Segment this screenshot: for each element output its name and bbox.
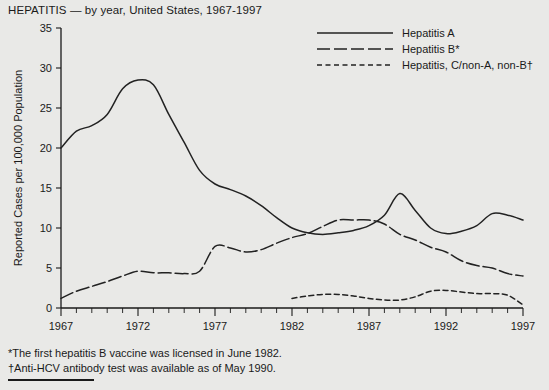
x-tick-label: 1972 xyxy=(126,320,150,332)
page-title: HEPATITIS — by year, United States, 1967… xyxy=(8,4,262,16)
y-tick-label: 10 xyxy=(40,222,52,234)
x-tick-label: 1982 xyxy=(280,320,304,332)
y-tick-label: 30 xyxy=(40,62,52,74)
x-axis: 1967197219771982198719921997 xyxy=(49,308,535,332)
footnote-anti-hcv-test: †Anti-HCV antibody test was available as… xyxy=(8,361,282,376)
legend-label-3: Hepatitis, C/non-A, non-B† xyxy=(402,59,533,71)
legend-label-2: Hepatitis B* xyxy=(402,43,460,55)
x-tick-label: 1997 xyxy=(511,320,535,332)
x-axis-title: Year xyxy=(281,336,304,338)
y-tick-label: 20 xyxy=(40,142,52,154)
y-tick-label: 5 xyxy=(46,262,52,274)
y-tick-label: 25 xyxy=(40,102,52,114)
series-hepatitis-c-non-a-non-b xyxy=(292,290,523,304)
y-tick-label: 15 xyxy=(40,182,52,194)
y-tick-label: 35 xyxy=(40,22,52,34)
footnotes: *The first hepatitis B vaccine was licen… xyxy=(8,346,282,376)
y-axis: 05101520253035 xyxy=(40,22,61,314)
footnote-hepatitis-b-vaccine: *The first hepatitis B vaccine was licen… xyxy=(8,346,282,361)
x-tick-label: 1992 xyxy=(434,320,458,332)
x-tick-label: 1987 xyxy=(357,320,381,332)
hepatitis-line-chart: 05101520253035 1967197219771982198719921… xyxy=(0,18,549,338)
x-tick-label: 1977 xyxy=(203,320,227,332)
x-tick-label: 1967 xyxy=(49,320,73,332)
series-hepatitis-a xyxy=(61,80,523,235)
y-axis-title: Reported Cases per 100,000 Population xyxy=(12,70,24,266)
chart-legend: Hepatitis AHepatitis B*Hepatitis, C/non-… xyxy=(317,27,533,71)
chart-plot-area: 05101520253035 1967197219771982198719921… xyxy=(0,18,549,338)
y-tick-label: 0 xyxy=(46,302,52,314)
series-group xyxy=(61,80,523,305)
footer-divider xyxy=(8,379,94,381)
chart-page: HEPATITIS — by year, United States, 1967… xyxy=(0,0,549,390)
series-hepatitis-b xyxy=(61,220,523,299)
legend-label-1: Hepatitis A xyxy=(402,27,455,39)
